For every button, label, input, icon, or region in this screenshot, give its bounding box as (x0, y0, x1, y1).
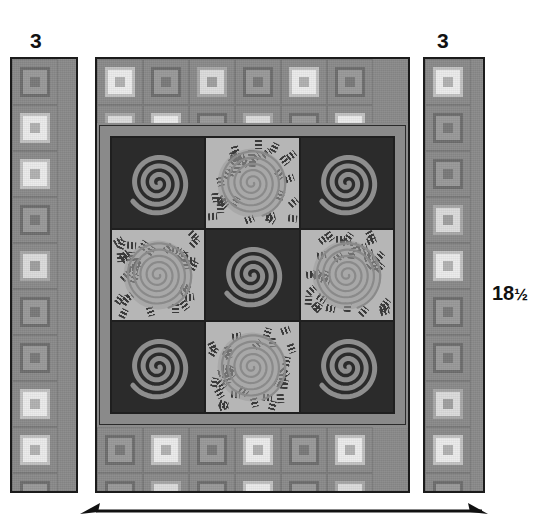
print-cell (425, 59, 471, 105)
right-border-fabric-print (425, 59, 483, 491)
quilt-height-label: 18½ (492, 283, 528, 303)
left-border-fabric-print (12, 59, 76, 491)
quilt-block-middle-center (205, 229, 299, 321)
spiral-motif-icon (209, 324, 295, 410)
print-cell (12, 243, 58, 289)
print-cell (425, 197, 471, 243)
print-cell (281, 59, 327, 105)
quilt-height-whole: 18 (492, 282, 514, 304)
top-border-band (97, 59, 408, 123)
quilt-block-bottom-left (111, 321, 205, 413)
print-cell (425, 335, 471, 381)
print-cell (12, 59, 58, 105)
top-border-fabric-print (97, 59, 408, 123)
print-cell (12, 335, 58, 381)
print-cell (97, 59, 143, 105)
print-cell (281, 473, 327, 491)
spiral-motif-icon (304, 232, 390, 318)
print-cell (189, 59, 235, 105)
print-cell (235, 105, 281, 123)
print-cell (189, 105, 235, 123)
print-cell (425, 427, 471, 473)
print-cell (281, 105, 327, 123)
print-cell (425, 105, 471, 151)
spiral-motif-icon (310, 146, 384, 220)
quilt-center-panel (95, 57, 410, 493)
print-cell (143, 427, 189, 473)
print-cell (12, 151, 58, 197)
spiral-motif-icon (121, 146, 195, 220)
right-border-width-label: 3 (437, 30, 449, 51)
print-cell (12, 289, 58, 335)
bottom-border-band (97, 427, 408, 491)
print-cell (327, 105, 373, 123)
print-cell (12, 473, 58, 493)
print-cell (143, 59, 189, 105)
print-cell (425, 243, 471, 289)
quilt-block-bottom-center (205, 321, 299, 413)
left-border-width-label: 3 (30, 30, 42, 51)
print-cell (235, 59, 281, 105)
spiral-motif-icon (209, 140, 295, 226)
print-cell (189, 473, 235, 491)
print-cell (12, 197, 58, 243)
quilt-block-top-right (300, 137, 394, 229)
print-cell (327, 59, 373, 105)
right-border-strip (423, 57, 485, 493)
quilt-block-middle-right (300, 229, 394, 321)
print-cell (327, 427, 373, 473)
print-cell (425, 381, 471, 427)
width-dimension-arrow-icon (78, 497, 490, 515)
print-cell (425, 151, 471, 197)
print-cell (327, 473, 373, 491)
block-grid (110, 136, 395, 414)
quilt-block-top-center (205, 137, 299, 229)
print-cell (189, 427, 235, 473)
print-cell (425, 473, 471, 493)
spiral-motif-icon (121, 330, 195, 404)
quilt-height-fraction: ½ (514, 285, 528, 303)
quilt-block-top-left (111, 137, 205, 229)
quilt-block-middle-left (111, 229, 205, 321)
spiral-motif-icon (115, 232, 201, 318)
print-cell (12, 105, 58, 151)
quilt-block-bottom-right (300, 321, 394, 413)
bottom-border-fabric-print (97, 427, 408, 491)
print-cell (425, 289, 471, 335)
spiral-motif-icon (310, 330, 384, 404)
print-cell (12, 427, 58, 473)
print-cell (281, 427, 327, 473)
print-cell (97, 105, 143, 123)
print-cell (235, 473, 281, 491)
print-cell (12, 381, 58, 427)
print-cell (97, 473, 143, 491)
print-cell (143, 105, 189, 123)
left-border-strip (10, 57, 78, 493)
print-cell (143, 473, 189, 491)
spiral-motif-icon (215, 238, 289, 312)
print-cell (235, 427, 281, 473)
print-cell (97, 427, 143, 473)
quilt-inner-field (99, 125, 406, 425)
